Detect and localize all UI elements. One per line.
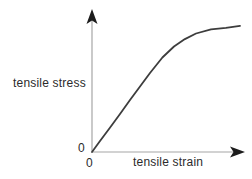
origin-zero-x-axis: 0 <box>86 157 93 169</box>
stress-strain-curve <box>92 26 240 152</box>
y-axis-label: tensile stress <box>13 77 86 89</box>
stress-strain-figure: tensile stress tensile strain 0 0 <box>0 0 252 179</box>
origin-zero-y-axis: 0 <box>78 142 85 154</box>
x-axis-label: tensile strain <box>133 156 203 168</box>
